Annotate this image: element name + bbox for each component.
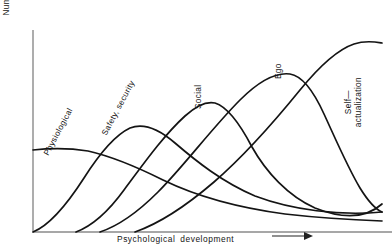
curve-label-self-actualization: Self— actualization [344,77,363,127]
curve-label-social: Social [194,85,203,109]
right-arrow-icon [304,232,313,240]
y-axis-label-line2: importance of needs [13,0,24,42]
y-axis-label-line1: Number, variety, and relative [2,0,13,42]
hierarchy-of-needs-figure: Number, variety, and relative importance… [0,0,392,249]
curve-physiological [33,149,382,221]
curve-safety-security [33,126,382,232]
x-axis-label: Psychological development [117,234,234,244]
curve-label-self-actualization-line1: Self— [344,77,354,127]
curve-self-actualization [135,42,382,232]
curve-label-self-actualization-line2: actualization [353,77,363,127]
curve-label-ego: Ego [274,63,283,79]
y-axis-label: Number, variety, and relative importance… [2,0,23,42]
curve-ego [100,74,382,232]
